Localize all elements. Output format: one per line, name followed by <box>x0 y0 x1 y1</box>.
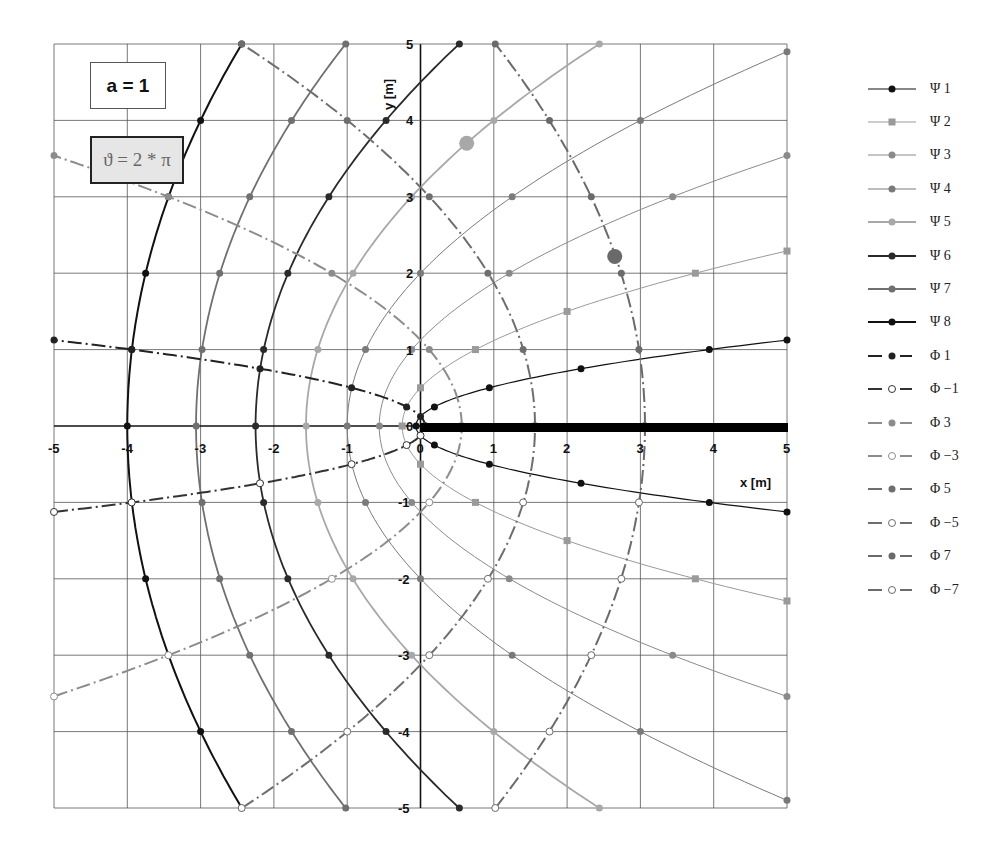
data-point <box>288 117 295 124</box>
legend-label: Ψ 6 <box>930 248 951 264</box>
legend-label: Ψ 4 <box>930 181 951 197</box>
data-point <box>784 248 791 255</box>
dot-marker-icon <box>868 316 924 328</box>
legend-label: Ψ 3 <box>930 147 951 163</box>
dot-marker-icon <box>868 216 924 228</box>
y-tick-label: 5 <box>406 37 413 52</box>
data-point <box>252 423 259 430</box>
data-point <box>706 346 713 353</box>
open-circle-marker-icon <box>868 517 924 529</box>
data-point <box>348 384 355 391</box>
data-point <box>417 575 424 582</box>
legend-label: Φ −1 <box>930 381 959 397</box>
data-point <box>350 575 357 582</box>
theta-label: ϑ = 2 * π <box>90 136 184 184</box>
data-point <box>216 270 223 277</box>
data-point <box>509 193 516 200</box>
y-tick-label: -3 <box>398 648 410 663</box>
data-point <box>417 461 424 468</box>
legend-item: Φ −7 <box>868 573 998 606</box>
legend-label: Φ 1 <box>930 348 951 364</box>
data-point <box>350 270 357 277</box>
data-point <box>383 728 390 735</box>
data-point <box>506 575 513 582</box>
data-point <box>51 152 58 159</box>
data-point <box>618 575 625 582</box>
legend-item: Φ 5 <box>868 473 998 506</box>
legend-item: Φ 3 <box>868 406 998 439</box>
data-point <box>784 48 791 55</box>
data-point <box>216 575 223 582</box>
dot-marker-icon <box>868 417 924 429</box>
legend-label: Φ −3 <box>930 448 959 464</box>
legend-item: Ψ 2 <box>868 105 998 138</box>
y-axis-title: y [m] <box>381 79 396 110</box>
legend-label: Ψ 1 <box>930 81 951 97</box>
data-point <box>784 797 791 804</box>
y-tick-label: -2 <box>398 572 410 587</box>
x-tick-label: -5 <box>48 441 60 456</box>
data-point <box>51 508 58 515</box>
legend-item: Ψ 4 <box>868 172 998 205</box>
data-point <box>588 193 595 200</box>
data-point <box>344 423 351 430</box>
open-circle-marker-icon <box>868 450 924 462</box>
data-point <box>314 499 321 506</box>
legend-item: Ψ 7 <box>868 272 998 305</box>
data-point <box>325 193 332 200</box>
data-point <box>128 346 135 353</box>
data-point <box>490 728 497 735</box>
data-point <box>284 270 291 277</box>
data-point <box>256 365 263 372</box>
data-point <box>342 805 349 812</box>
data-point <box>431 403 438 410</box>
data-point <box>426 652 433 659</box>
data-point <box>417 413 424 420</box>
data-point <box>142 270 149 277</box>
y-tick-label: -5 <box>398 801 410 816</box>
data-point <box>362 346 369 353</box>
x-tick-label: 3 <box>636 441 643 456</box>
series-line <box>54 340 425 426</box>
data-point <box>376 423 383 430</box>
legend-label: Φ 7 <box>930 548 951 564</box>
x-tick-label: 0 <box>417 441 424 456</box>
data-point <box>588 652 595 659</box>
data-point <box>413 423 420 430</box>
data-point <box>706 499 713 506</box>
data-point <box>578 480 585 487</box>
data-point <box>288 728 295 735</box>
legend-item: Φ −3 <box>868 439 998 472</box>
dot-marker-icon <box>868 550 924 562</box>
data-point <box>328 575 335 582</box>
data-point <box>564 308 571 315</box>
data-point <box>426 499 433 506</box>
data-point <box>238 805 245 812</box>
data-point <box>669 193 676 200</box>
y-tick-label: -4 <box>398 725 410 740</box>
data-point <box>51 693 58 700</box>
data-point <box>456 41 463 48</box>
legend-item: Ψ 6 <box>868 239 998 272</box>
dot-marker-icon <box>868 483 924 495</box>
legend-item: Ψ 3 <box>868 139 998 172</box>
data-point <box>472 346 479 353</box>
data-point <box>348 461 355 468</box>
legend-item: Ψ 5 <box>868 206 998 239</box>
highlight-point <box>607 249 622 264</box>
legend-label: Ψ 2 <box>930 114 951 130</box>
series-line <box>54 426 425 512</box>
legend-item: Ψ 8 <box>868 306 998 339</box>
x-tick-label: 2 <box>563 441 570 456</box>
data-point <box>784 693 791 700</box>
data-point <box>486 384 493 391</box>
data-point <box>165 652 172 659</box>
y-tick-label: 2 <box>406 266 413 281</box>
data-point <box>403 442 410 449</box>
data-point <box>484 270 491 277</box>
data-point <box>578 365 585 372</box>
data-point <box>484 575 491 582</box>
x-tick-label: 4 <box>710 441 718 456</box>
data-point <box>472 499 479 506</box>
dot-marker-icon <box>868 83 924 95</box>
